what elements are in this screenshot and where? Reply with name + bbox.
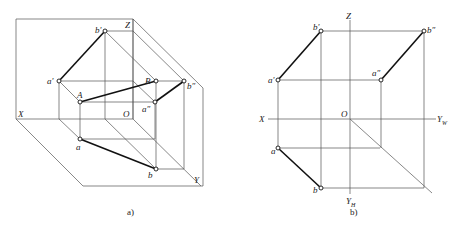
label-a-prime: a' xyxy=(47,76,55,86)
segment-a'b' xyxy=(59,31,105,81)
proj-line xyxy=(59,119,80,139)
proj-line xyxy=(105,119,156,169)
label-a-dprime: a″ xyxy=(142,104,151,114)
label-x: X xyxy=(17,109,24,119)
projection-diagram: Z X O Y b' a' A B b″ a″ a b a) xyxy=(0,0,455,228)
point-a-dprime xyxy=(379,78,383,82)
label-z: Z xyxy=(125,20,131,30)
label-a: a xyxy=(76,142,81,152)
label-a-dprime: a″ xyxy=(372,68,381,78)
caption-a: a) xyxy=(127,207,134,217)
segment-ab xyxy=(278,148,321,188)
proj-line xyxy=(105,31,156,81)
label-b-prime: b' xyxy=(95,25,103,35)
label-a-prime: a' xyxy=(268,75,276,85)
label-b-dprime: b″ xyxy=(187,81,196,91)
segment-a''b'' xyxy=(381,31,424,80)
proj-line xyxy=(133,31,184,81)
segment-a'b' xyxy=(278,31,321,80)
h-plane-frame xyxy=(16,119,203,186)
point-B xyxy=(154,79,158,83)
label-y: Y xyxy=(194,175,200,185)
label-yw: YW xyxy=(437,114,448,126)
label-A: A xyxy=(76,90,83,100)
point-b-dprime xyxy=(182,79,186,83)
figure-a: Z X O Y b' a' A B b″ a″ a b a) xyxy=(16,19,203,217)
point-a xyxy=(78,137,82,141)
label-b-dprime: b″ xyxy=(427,25,436,35)
label-b-prime: b' xyxy=(313,22,321,32)
point-b-prime xyxy=(103,29,107,33)
segment-a''b'' xyxy=(155,81,184,102)
45-degree-line xyxy=(350,119,432,193)
point-a-prime xyxy=(276,78,280,82)
v-plane-frame xyxy=(16,19,133,119)
point-a xyxy=(276,146,280,150)
segment-ab xyxy=(80,139,156,169)
point-a-prime xyxy=(57,79,61,83)
w-plane-frame xyxy=(133,19,203,186)
label-o: O xyxy=(123,109,130,119)
label-a: a xyxy=(271,146,276,156)
point-b-prime xyxy=(319,29,323,33)
caption-b: b) xyxy=(350,207,358,217)
label-x: X xyxy=(258,114,265,124)
label-o: O xyxy=(341,109,348,119)
point-b-dprime xyxy=(422,29,426,33)
point-A xyxy=(78,100,82,104)
figure-b: Z X O YW YH b' a' b″ a″ a b b) xyxy=(258,11,448,217)
point-b xyxy=(154,167,158,171)
label-b: b xyxy=(148,170,153,180)
y-axis xyxy=(133,119,201,186)
point-b xyxy=(319,186,323,190)
point-a-dprime xyxy=(153,100,157,104)
label-z: Z xyxy=(346,11,352,21)
label-b: b xyxy=(313,185,318,195)
label-B: B xyxy=(145,76,151,86)
